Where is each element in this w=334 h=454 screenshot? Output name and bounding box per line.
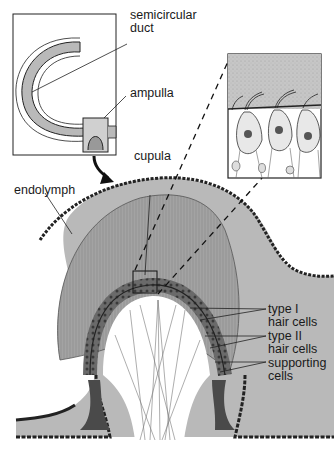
- label-cupula: cupula: [134, 150, 171, 163]
- label-type-ii-hair-cells: hair cells: [268, 343, 317, 356]
- label-supporting-cells: cells: [268, 370, 293, 383]
- label-type-i-hair-cells: hair cells: [268, 316, 317, 329]
- label-ampulla: ampulla: [130, 87, 174, 100]
- label-endolymph: endolymph: [14, 184, 75, 197]
- overview-inset: [13, 14, 116, 155]
- ampulla-diagram: [0, 0, 334, 454]
- magnified-inset: [228, 54, 321, 178]
- label-duct: duct: [130, 22, 154, 35]
